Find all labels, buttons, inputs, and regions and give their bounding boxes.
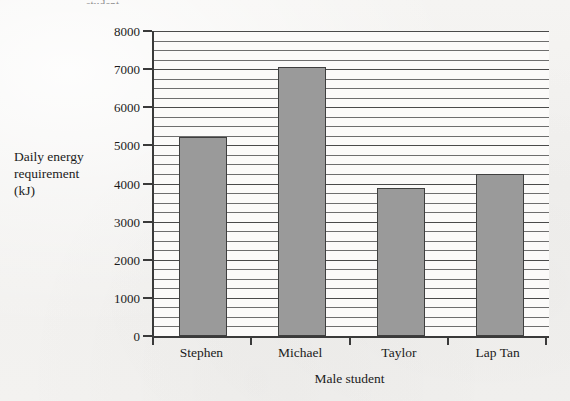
y-axis-tick-label: 2000	[114, 254, 140, 267]
y-axis-tick-mark	[143, 259, 152, 261]
y-axis-tick-mark	[143, 183, 152, 185]
y-axis-tick-label: 0	[134, 330, 141, 343]
x-axis-tick-mark	[250, 337, 252, 345]
x-axis-tick-mark	[152, 337, 154, 345]
x-axis-tick-mark	[447, 337, 449, 345]
bar	[179, 137, 227, 336]
bar	[278, 67, 326, 336]
y-axis-tick-mark	[143, 68, 152, 70]
y-axis-tick-labels: 010002000300040005000600070008000	[70, 31, 140, 336]
y-axis-tick-mark	[143, 144, 152, 146]
x-axis-tick-mark	[349, 337, 351, 345]
x-axis-tick-label: Lap Tan	[448, 345, 547, 361]
y-axis-tick-label: 5000	[114, 139, 140, 152]
cut-off-caption-text: student.	[86, 0, 178, 4]
bar-chart-figure: student. Daily energy requirement (kJ) 0…	[0, 0, 570, 401]
y-axis-tick-mark	[143, 221, 152, 223]
y-axis-tick-mark	[143, 106, 152, 108]
y-axis-tick-label: 8000	[114, 25, 140, 38]
y-axis-tick-label: 3000	[114, 216, 140, 229]
x-axis-tick-label: Stephen	[152, 345, 251, 361]
bars-layer	[154, 31, 549, 336]
x-axis-tick-mark	[545, 337, 547, 345]
y-axis-tick-label: 7000	[114, 63, 140, 76]
bar	[476, 174, 524, 336]
y-axis-tick-label: 6000	[114, 101, 140, 114]
x-axis-tick-labels: StephenMichaelTaylorLap Tan	[152, 345, 547, 365]
plot-area	[152, 31, 549, 338]
x-axis-tick-marks	[152, 337, 547, 345]
y-axis-tick-label: 1000	[114, 292, 140, 305]
x-axis-title: Male student	[152, 371, 547, 387]
y-axis-tick-label: 4000	[114, 178, 140, 191]
y-axis-tick-mark	[143, 297, 152, 299]
x-axis-tick-label: Taylor	[350, 345, 449, 361]
y-axis-tick-mark	[143, 335, 152, 337]
x-axis-tick-label: Michael	[251, 345, 350, 361]
y-axis-tick-mark	[143, 30, 152, 32]
bar	[377, 188, 425, 336]
